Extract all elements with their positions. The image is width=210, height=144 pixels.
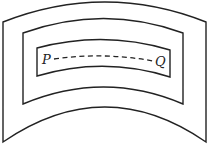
point-q-label: Q xyxy=(155,54,166,69)
dashed-path-p-to-q xyxy=(54,56,153,61)
point-p-label: P xyxy=(41,52,51,67)
diagram-canvas: P Q xyxy=(0,0,210,144)
outer-region xyxy=(3,2,206,142)
